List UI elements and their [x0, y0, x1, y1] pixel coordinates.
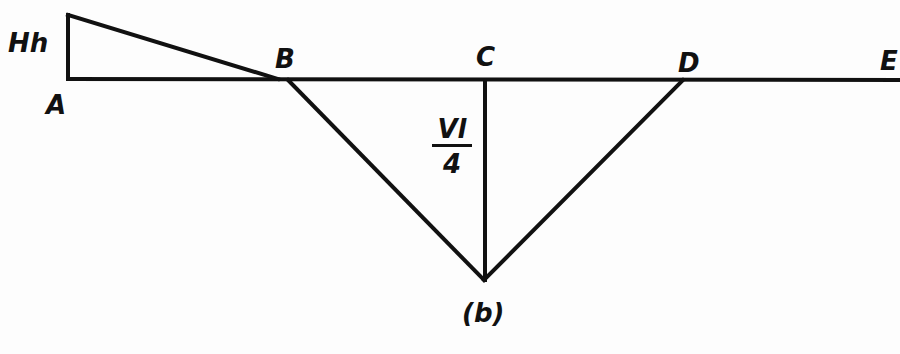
label-vl-over-4: Vl 4 [432, 116, 472, 177]
label-C: C [476, 44, 495, 70]
diagram-canvas: Hh A B C D E Vl 4 (b) [0, 0, 900, 354]
label-E: E [880, 48, 898, 74]
caption: (b) [462, 300, 504, 326]
label-D: D [678, 50, 700, 76]
slope-bottom-to-D [484, 80, 683, 280]
slope-Hh-to-B [68, 15, 278, 79]
fraction-numerator: Vl [432, 116, 472, 147]
label-A: A [46, 92, 66, 118]
slope-B-to-bottom [288, 80, 484, 280]
label-B: B [275, 46, 295, 72]
fraction-denominator: 4 [432, 147, 472, 177]
label-Hh: Hh [8, 30, 48, 56]
